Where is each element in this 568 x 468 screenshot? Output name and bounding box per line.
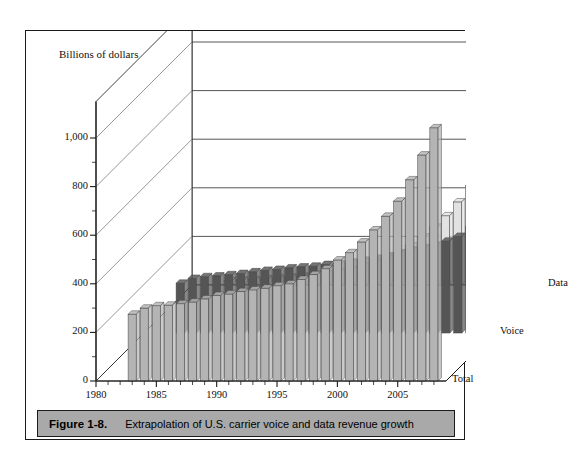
chart-plot-area: Billions of dollars 02004006008001,000 1… [26, 31, 466, 399]
bar-chart-svg [26, 31, 466, 399]
series-label-data: Data [548, 277, 568, 288]
series-label-voice: Voice [500, 325, 524, 336]
y-tick-label: 400 [44, 277, 88, 288]
x-tick-label: 2005 [375, 389, 421, 400]
y-tick-label: 600 [44, 228, 88, 239]
x-tick-label: 2000 [314, 389, 360, 400]
figure-caption-text: Extrapolation of U.S. carrier voice and … [125, 418, 414, 430]
figure-caption-bar: Figure 1-8. Extrapolation of U.S. carrie… [37, 410, 455, 437]
y-tick-label: 0 [44, 374, 88, 385]
y-tick-label: 1,000 [44, 131, 88, 142]
x-tick-label: 1990 [194, 389, 240, 400]
series-label-total: Total [452, 373, 473, 384]
y-tick-label: 200 [44, 325, 88, 336]
x-tick-label: 1985 [133, 389, 179, 400]
x-tick-label: 1980 [73, 389, 119, 400]
figure-number: Figure 1-8. [49, 418, 107, 430]
y-tick-label: 800 [44, 180, 88, 191]
figure-frame: Billions of dollars 02004006008001,000 1… [25, 30, 465, 440]
x-tick-label: 1995 [254, 389, 300, 400]
